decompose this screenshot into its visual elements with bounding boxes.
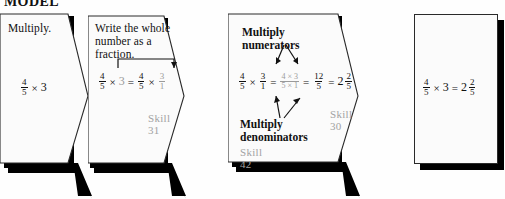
whole-3: 3 xyxy=(41,80,47,95)
times-icon: × xyxy=(32,82,38,94)
whole-3: 3 xyxy=(119,74,125,89)
fraction-4-5: 4 5 xyxy=(99,72,106,91)
panel-3-label-denominators-line-2: denominators xyxy=(240,131,308,143)
times-icon: × xyxy=(110,76,116,88)
panel-3-label-denominators-line-1: Multiply xyxy=(240,118,283,130)
panel-3-label-denominators: Multiply denominators xyxy=(240,118,332,144)
whole-3: 3 xyxy=(443,80,449,95)
fraction-4-5-b: 4 5 xyxy=(138,72,145,91)
panel-3-skill-label: Skill 30 xyxy=(330,108,352,132)
page-title: MODEL xyxy=(4,0,59,10)
model-diagram: MODEL Multiply. 4 5 × 3 xyxy=(0,0,505,199)
mixed-number-2-2-5: 2 2 5 xyxy=(461,78,477,97)
panel-3-skill-label-2: Skill 42 xyxy=(240,146,262,170)
times-icon: × xyxy=(434,82,440,94)
panel-1-title: Multiply. xyxy=(8,22,51,35)
panel-2-bracket-arrow-icon xyxy=(88,0,248,199)
panel-4-equation: 4 5 × 3 = 2 2 5 xyxy=(422,78,476,97)
equals-icon: = xyxy=(452,82,458,94)
panel-1-equation: 4 5 × 3 xyxy=(20,78,47,97)
panel-2-skill-label: Skill 31 xyxy=(148,112,170,136)
times-icon-b: × xyxy=(148,76,154,88)
panel-2-equation: 4 5 × 3 = 4 5 × 3 1 xyxy=(98,72,166,91)
fraction-4-5: 4 5 xyxy=(21,78,28,97)
fraction-4-5: 4 5 xyxy=(423,78,430,97)
equals-icon: = xyxy=(128,76,134,88)
fraction-3-1: 3 1 xyxy=(159,72,166,91)
